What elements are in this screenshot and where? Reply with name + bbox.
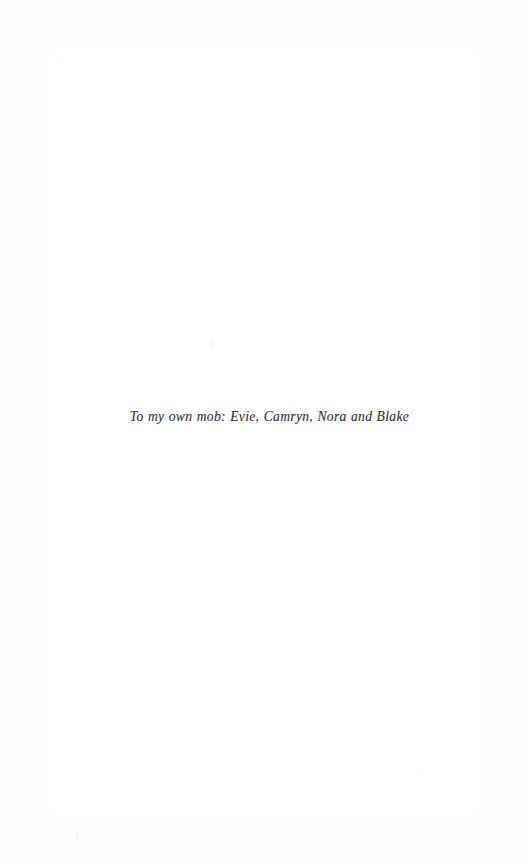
dedication-text: To my own mob: Evie, Camryn, Nora and Bl… — [130, 406, 409, 427]
scan-speck-icon — [417, 771, 419, 774]
dedication-block: To my own mob: Evie, Camryn, Nora and Bl… — [0, 406, 529, 427]
book-page: To my own mob: Evie, Camryn, Nora and Bl… — [0, 0, 529, 865]
scan-speck-icon — [210, 341, 213, 346]
scan-speck-icon — [75, 833, 78, 840]
